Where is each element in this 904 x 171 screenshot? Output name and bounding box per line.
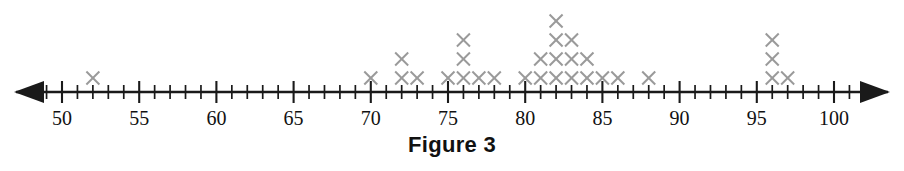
axis-tick-label: 70 [361, 107, 381, 129]
data-marker-x [565, 34, 578, 47]
dot-plot-canvas: 50556065707580859095100 [0, 0, 904, 135]
data-marker-x [550, 34, 563, 47]
data-marker-x [457, 72, 470, 85]
data-marker-x [580, 72, 593, 85]
axis-tick-labels: 50556065707580859095100 [52, 107, 849, 129]
figure-caption: Figure 3 [0, 132, 904, 158]
data-marker-x [766, 53, 779, 66]
axis-group [14, 81, 890, 103]
axis-tick-label: 75 [438, 107, 458, 129]
figure-3-dot-plot: 50556065707580859095100 Figure 3 [0, 0, 904, 171]
axis-tick-label: 65 [284, 107, 304, 129]
data-marker-x [642, 72, 655, 85]
data-marker-x [457, 34, 470, 47]
axis-tick-label: 55 [129, 107, 149, 129]
data-marker-x [488, 72, 501, 85]
data-marker-x [550, 53, 563, 66]
axis-tick-label: 50 [52, 107, 72, 129]
data-marker-x [550, 15, 563, 28]
data-marker-x [534, 72, 547, 85]
data-marker-x [395, 53, 408, 66]
data-marker-x [411, 72, 424, 85]
data-marker-x [534, 53, 547, 66]
axis-tick-label: 85 [592, 107, 612, 129]
right-arrow-icon [860, 81, 890, 103]
left-arrow-icon [14, 81, 44, 103]
data-marker-x [457, 53, 470, 66]
data-markers [86, 15, 794, 85]
data-marker-x [611, 72, 624, 85]
data-marker-x [86, 72, 99, 85]
axis-tick-label: 80 [515, 107, 535, 129]
data-marker-x [565, 53, 578, 66]
data-marker-x [766, 72, 779, 85]
axis-tick-label: 60 [206, 107, 226, 129]
data-marker-x [395, 72, 408, 85]
data-marker-x [580, 53, 593, 66]
axis-tick-label: 100 [819, 107, 849, 129]
data-marker-x [550, 72, 563, 85]
axis-tick-label: 95 [747, 107, 767, 129]
axis-tick-label: 90 [670, 107, 690, 129]
data-marker-x [781, 72, 794, 85]
data-marker-x [766, 34, 779, 47]
data-marker-x [565, 72, 578, 85]
data-marker-x [472, 72, 485, 85]
